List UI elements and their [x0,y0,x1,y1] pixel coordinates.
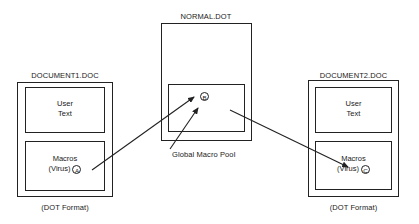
arrow-b-to-c [230,110,348,167]
arrow-a-to-b [92,97,194,170]
arrows-layer [0,0,419,224]
arrow-pool-label-to-b [170,108,198,149]
